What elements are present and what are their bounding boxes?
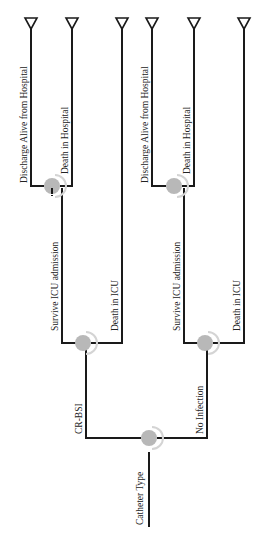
a-discharge-label: Discharge Alive from Hospital [19, 66, 29, 183]
terminal-triangle-icon[interactable] [25, 18, 37, 29]
b-discharge-line [152, 28, 166, 186]
b-death-hosp-label: Death in Hospital [182, 107, 192, 174]
b-survive-label: Survive ICU admission [172, 242, 182, 331]
b-survive-line [184, 188, 198, 343]
a-discharge-line [31, 28, 44, 186]
a-death-hosp-label: Death in Hospital [60, 107, 70, 174]
terminal-triangle-icon[interactable] [188, 18, 200, 29]
terminal-triangle-icon[interactable] [146, 18, 158, 29]
terminal-triangle-icon[interactable] [116, 18, 128, 29]
terminal-triangle-icon[interactable] [238, 18, 250, 29]
b-death-icu-label: Death in ICU [232, 280, 242, 331]
a-death-icu-label: Death in ICU [110, 280, 120, 331]
no-infection-label: No Infection [195, 385, 205, 434]
b-discharge-label: Discharge Alive from Hospital [140, 66, 150, 183]
terminal-triangle-icon[interactable] [66, 18, 78, 29]
branch-crbsi-line [86, 345, 141, 438]
root-label: Catheter Type [135, 472, 145, 525]
decision-tree-diagram: Catheter Type CR-BSI No Infection Surviv… [0, 0, 259, 551]
crbsi-label: CR-BSI [74, 403, 84, 434]
a-survive-label: Survive ICU admission [50, 242, 60, 331]
a-survive-line [62, 188, 76, 343]
